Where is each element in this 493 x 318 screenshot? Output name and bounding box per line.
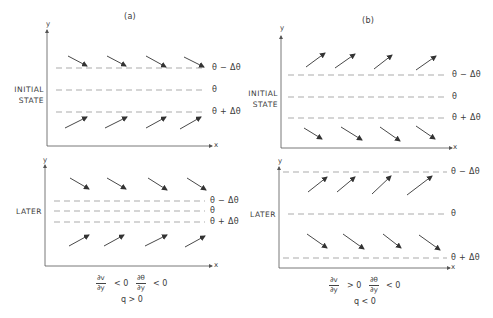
level-label-theta-plus: θ + Δθ bbox=[452, 114, 481, 122]
y-axis-label: y bbox=[278, 158, 282, 165]
dtheta-dy-relation: < 0 bbox=[153, 279, 167, 288]
wind-arrows-upper bbox=[68, 56, 204, 67]
level-label-theta-plus: θ + Δθ bbox=[210, 218, 239, 226]
wind-arrows-upper bbox=[70, 178, 206, 190]
isentrope-lines bbox=[283, 172, 447, 258]
level-label-theta-plus: θ + Δθ bbox=[212, 108, 241, 116]
state-label-initial: INITIAL STATE bbox=[10, 84, 44, 106]
wind-arrows-lower bbox=[69, 235, 205, 247]
dtheta-dy-fraction: ∂θ ∂y bbox=[136, 275, 146, 292]
x-axis-label: x bbox=[214, 142, 218, 149]
isentrope-lines bbox=[288, 75, 447, 118]
isentrope-lines bbox=[54, 201, 205, 222]
pv-relation: q < 0 bbox=[354, 297, 376, 306]
wind-arrows-lower bbox=[304, 126, 435, 141]
level-label-theta-minus: θ − Δθ bbox=[210, 197, 239, 205]
dtheta-dy-fraction: ∂θ ∂y bbox=[369, 277, 379, 294]
y-axis-label: y bbox=[43, 157, 47, 164]
panel-a-later bbox=[45, 165, 212, 266]
level-label-theta: θ bbox=[212, 86, 217, 94]
x-axis-label: x bbox=[214, 262, 218, 269]
level-label-theta: θ bbox=[210, 207, 215, 215]
level-label-theta-minus: θ − Δθ bbox=[212, 64, 241, 72]
dv-dy-relation: > 0 bbox=[347, 281, 361, 290]
y-axis-label: y bbox=[46, 21, 50, 28]
level-label-theta-plus: θ + Δθ bbox=[451, 254, 480, 262]
level-label-theta-minus: θ − Δθ bbox=[452, 71, 481, 79]
wind-arrows-lower bbox=[65, 117, 201, 129]
dtheta-dy-relation: < 0 bbox=[386, 281, 400, 290]
dv-dy-fraction: ∂v ∂y bbox=[329, 277, 339, 294]
level-label-theta: θ bbox=[452, 93, 457, 101]
wind-arrows-upper bbox=[306, 53, 436, 70]
state-label-initial: INITIAL STATE bbox=[244, 88, 278, 110]
pv-relation: q > 0 bbox=[121, 295, 143, 304]
state-label-later: LATER bbox=[244, 209, 276, 220]
y-axis-label: y bbox=[280, 25, 284, 32]
panel-b-title: (b) bbox=[362, 17, 374, 25]
dv-dy-fraction: ∂v ∂y bbox=[96, 275, 106, 292]
state-label-later: LATER bbox=[10, 206, 42, 217]
panel-a-title: (a) bbox=[124, 13, 136, 21]
level-label-theta: θ bbox=[451, 210, 456, 218]
level-label-theta-minus: θ − Δθ bbox=[451, 168, 480, 176]
wind-arrows-lower bbox=[307, 234, 440, 250]
panel-a-initial bbox=[47, 30, 212, 146]
diagram-canvas bbox=[0, 0, 493, 318]
wind-arrows-upper bbox=[308, 176, 432, 195]
panel-b-initial bbox=[281, 36, 452, 148]
isentrope-lines bbox=[56, 68, 204, 112]
panel-b-later bbox=[279, 167, 450, 268]
x-axis-label: x bbox=[453, 144, 457, 151]
x-axis-label: x bbox=[451, 264, 455, 271]
dv-dy-relation: < 0 bbox=[114, 279, 128, 288]
